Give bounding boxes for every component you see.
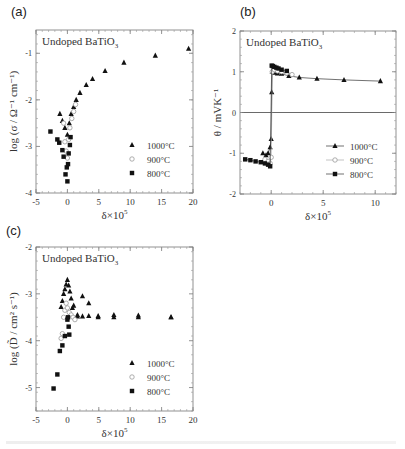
circle-marker: [59, 336, 63, 340]
triangle-marker: [59, 304, 64, 309]
x-tick-label: 0: [65, 415, 70, 425]
legend-label: 1000°C: [147, 359, 175, 369]
triangle-marker: [75, 312, 80, 317]
circle-marker: [61, 315, 65, 319]
x-tick-label: 20: [189, 415, 199, 425]
square-marker: [51, 386, 55, 390]
triangle-marker: [86, 313, 91, 318]
square-marker: [66, 315, 70, 319]
square-marker: [66, 324, 70, 328]
x-axis-label: δ×105: [102, 426, 128, 439]
chart-title: Undoped BaTiO3: [42, 252, 119, 267]
square-marker: [63, 334, 67, 338]
circle-marker: [64, 301, 68, 305]
square-marker: [130, 389, 134, 393]
triangle-marker: [86, 300, 91, 305]
y-tick-label: -3: [25, 290, 32, 299]
triangle-marker: [80, 293, 85, 298]
chart-c-diffusivity: -505101520-5-4-3-2Undoped BaTiO3δ×105log…: [0, 0, 405, 449]
triangle-marker: [67, 289, 72, 294]
y-tick-label: -2: [25, 243, 32, 252]
triangle-marker: [71, 303, 76, 308]
figure-caption-faint: [6, 441, 396, 444]
y-axis-label: log (D̃ / cm² s⁻¹): [7, 292, 20, 366]
circle-marker: [65, 306, 69, 310]
triangle-marker: [61, 291, 66, 296]
x-tick-label: -5: [32, 415, 40, 425]
triangle-marker: [168, 314, 173, 319]
x-tick-label: 10: [126, 415, 136, 425]
square-marker: [55, 372, 59, 376]
triangle-marker: [69, 296, 74, 301]
square-marker: [60, 343, 64, 347]
circle-marker: [130, 375, 134, 379]
y-tick-label: -4: [25, 337, 32, 346]
y-tick-label: -5: [25, 384, 32, 393]
legend-label: 900°C: [147, 373, 170, 383]
x-tick-label: 15: [157, 415, 167, 425]
circle-marker: [73, 317, 77, 321]
x-tick-label: 5: [97, 415, 102, 425]
square-marker: [67, 332, 71, 336]
triangle-marker: [129, 360, 134, 365]
square-marker: [58, 349, 62, 353]
legend-label: 800°C: [147, 387, 170, 397]
triangle-marker: [80, 313, 85, 318]
triangle-marker: [65, 277, 70, 282]
